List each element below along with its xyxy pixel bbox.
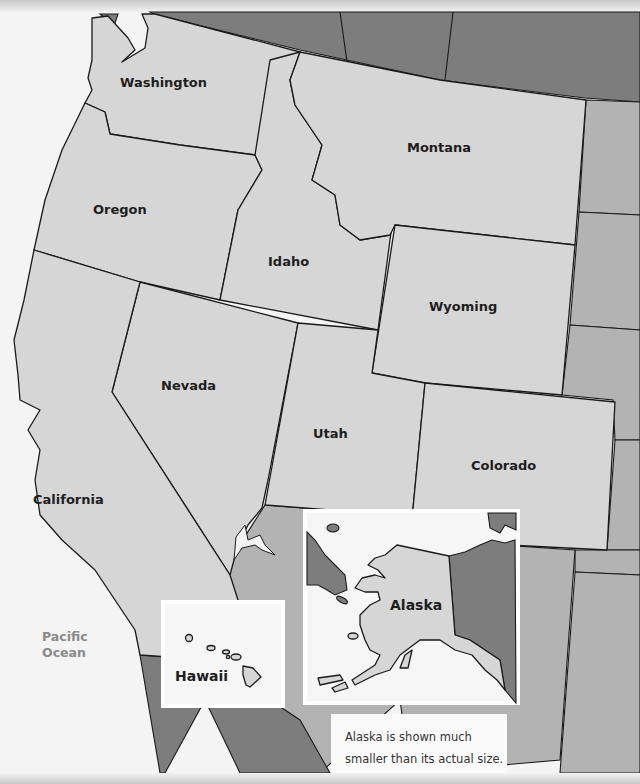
hawaii-inset: Hawaii	[163, 602, 283, 706]
page-bottom-edge	[0, 773, 640, 784]
island-kauai	[186, 635, 193, 642]
hawaii-label: Hawaii	[175, 668, 228, 684]
label-colorado: Colorado	[471, 458, 536, 473]
note-line-2: smaller than its actual size.	[345, 748, 507, 770]
island-lanai	[226, 655, 229, 658]
label-california: California	[33, 492, 104, 507]
alaska-island	[348, 633, 358, 639]
label-washington: Washington	[120, 75, 207, 90]
note-line-1: Alaska is shown much	[345, 726, 507, 748]
label-oregon: Oregon	[93, 202, 147, 217]
island-oahu	[207, 646, 215, 651]
label-wyoming: Wyoming	[429, 299, 497, 314]
ocean-label-line2: Ocean	[42, 645, 86, 660]
island-molokai	[223, 650, 230, 654]
alaska-inset: Alaska	[305, 511, 518, 703]
label-idaho: Idaho	[268, 254, 309, 269]
label-montana: Montana	[407, 140, 471, 155]
ocean-label-line1: Pacific	[42, 629, 88, 644]
south-dakota	[570, 212, 640, 330]
north-dakota	[579, 100, 640, 215]
island-maui	[231, 654, 241, 660]
st-lawrence-island	[327, 524, 339, 532]
label-nevada: Nevada	[161, 378, 216, 393]
oklahoma	[575, 550, 640, 575]
western-us-map: Washington Oregon California Idaho Nevad…	[0, 0, 640, 784]
alaska-label: Alaska	[390, 597, 442, 613]
label-utah: Utah	[313, 426, 348, 441]
texas	[560, 572, 640, 773]
